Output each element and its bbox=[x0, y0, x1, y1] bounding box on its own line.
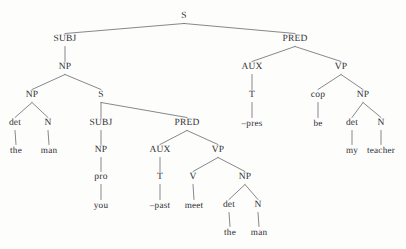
tree-edge bbox=[218, 158, 245, 172]
tree-node-np-2: NP bbox=[26, 91, 39, 101]
tree-edge bbox=[363, 103, 381, 118]
tree-node-man-leaf-2: man bbox=[251, 228, 267, 237]
tree-node-t-1: T bbox=[249, 91, 255, 101]
tree-edge bbox=[32, 75, 65, 90]
tree-edge bbox=[65, 24, 184, 34]
tree-node-v-1: V bbox=[189, 173, 196, 183]
tree-edge bbox=[15, 131, 16, 145]
tree-node-s-embedded: S bbox=[98, 91, 103, 101]
syntax-tree-diagram: SSUBJPREDNPAUXVPNPSTcopNPdetNSUBJPRED–pr… bbox=[0, 0, 406, 249]
tree-edge bbox=[318, 75, 341, 90]
tree-node-aux-1: AUX bbox=[241, 63, 262, 73]
tree-edge bbox=[65, 75, 101, 90]
tree-node-vp-2: VP bbox=[212, 146, 225, 156]
tree-edge bbox=[193, 185, 194, 200]
tree-node-n-2: N bbox=[254, 201, 261, 211]
tree-node-subj-1: SUBJ bbox=[54, 35, 77, 45]
tree-node-np-4: NP bbox=[95, 146, 108, 156]
tree-edge bbox=[245, 185, 258, 200]
tree-node-det-1: det bbox=[9, 119, 21, 129]
tree-node-aux-2: AUX bbox=[149, 146, 170, 156]
tree-node-np-5: NP bbox=[239, 173, 252, 183]
tree-edge bbox=[184, 24, 295, 34]
tree-node-meet-leaf: meet bbox=[185, 201, 204, 210]
tree-node-you-leaf: you bbox=[94, 201, 108, 210]
tree-edge bbox=[193, 158, 218, 172]
tree-edge bbox=[15, 103, 32, 118]
tree-node-vp-1: VP bbox=[335, 63, 348, 73]
tree-node-pred-2: PRED bbox=[174, 119, 199, 129]
tree-node-the-leaf-2: the bbox=[224, 228, 236, 237]
tree-edge bbox=[101, 103, 187, 118]
tree-node-be-leaf: be bbox=[313, 119, 322, 128]
tree-node-pred-1: PRED bbox=[282, 35, 307, 45]
tree-edge bbox=[187, 131, 218, 145]
tree-node-det-3: det bbox=[346, 119, 358, 129]
tree-node-t-2: T bbox=[157, 173, 163, 183]
tree-node-n-3: N bbox=[377, 119, 384, 129]
tree-edge bbox=[229, 185, 245, 200]
tree-node-pres-leaf: –pres bbox=[242, 119, 263, 128]
tree-node-man-leaf-1: man bbox=[41, 146, 57, 155]
tree-node-subj-2: SUBJ bbox=[90, 119, 113, 129]
tree-edge bbox=[341, 75, 363, 90]
tree-node-np-3: NP bbox=[357, 91, 370, 101]
tree-edge bbox=[32, 103, 48, 118]
tree-node-past-leaf: –past bbox=[150, 201, 170, 210]
tree-node-cop-1: cop bbox=[311, 91, 325, 101]
tree-edge bbox=[229, 213, 230, 227]
tree-edge bbox=[352, 103, 363, 118]
tree-edge bbox=[258, 213, 259, 227]
tree-node-pro-1: pro bbox=[94, 173, 107, 183]
tree-node-teacher-leaf: teacher bbox=[367, 146, 395, 155]
tree-node-my-leaf: my bbox=[346, 146, 358, 155]
tree-node-s-root: S bbox=[181, 12, 186, 22]
tree-edge bbox=[252, 47, 295, 62]
tree-edge bbox=[48, 131, 49, 145]
tree-node-np-1: NP bbox=[59, 63, 72, 73]
tree-node-det-2: det bbox=[223, 201, 235, 211]
tree-edge bbox=[295, 47, 341, 62]
tree-edge bbox=[160, 131, 187, 145]
tree-node-n-1: N bbox=[44, 119, 51, 129]
tree-node-the-leaf-1: the bbox=[10, 146, 22, 155]
